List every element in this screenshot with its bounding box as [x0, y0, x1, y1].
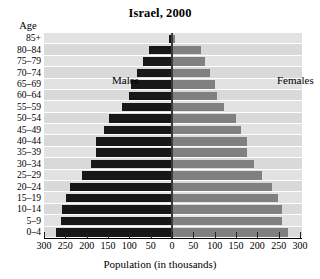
- x-axis-title: Population (in thousands): [0, 258, 320, 270]
- x-tick-mark: [65, 232, 66, 238]
- age-tick-label: 80–84: [0, 44, 41, 55]
- bar-female: [172, 69, 210, 77]
- series-label-females: Females: [277, 74, 314, 86]
- x-tick-mark: [300, 232, 301, 238]
- age-tick-label: 75–79: [0, 55, 41, 66]
- age-tick-label: 5–9: [0, 215, 41, 226]
- bar-male: [61, 217, 172, 225]
- bar-female: [172, 148, 247, 156]
- age-tick-label: 0–4: [0, 226, 41, 237]
- x-tick-mark: [279, 232, 280, 238]
- bar-male: [62, 205, 172, 213]
- population-pyramid-chart: Israel, 2000 Age Males Females 85+80–847…: [0, 0, 320, 279]
- bar-female: [172, 160, 254, 168]
- x-tick-mark: [257, 232, 258, 238]
- bar-female: [172, 183, 272, 191]
- series-label-males: Males: [112, 74, 139, 86]
- age-tick-label: 70–74: [0, 67, 41, 78]
- plot-area: Males Females: [44, 33, 302, 238]
- bar-male: [129, 92, 172, 100]
- bar-male: [70, 183, 172, 191]
- bar-female: [172, 126, 241, 134]
- age-tick-label: 10–14: [0, 203, 41, 214]
- bar-female: [172, 114, 236, 122]
- bar-male: [143, 57, 172, 65]
- bar-male: [96, 148, 172, 156]
- age-tick-label: 85+: [0, 32, 41, 43]
- bar-female: [172, 205, 282, 213]
- bar-female: [172, 80, 215, 88]
- x-axis-line: [44, 238, 302, 239]
- age-tick-label: 45–49: [0, 124, 41, 135]
- x-tick-mark: [151, 232, 152, 238]
- center-axis-line: [171, 33, 172, 238]
- bar-male: [109, 114, 172, 122]
- age-tick-label: 35–39: [0, 146, 41, 157]
- x-tick-mark: [236, 232, 237, 238]
- x-tick-mark: [87, 232, 88, 238]
- y-axis-title: Age: [12, 20, 44, 31]
- x-tick-mark: [172, 232, 173, 238]
- bar-male: [104, 126, 172, 134]
- age-tick-label: 60–64: [0, 89, 41, 100]
- bar-female: [172, 92, 217, 100]
- bar-female: [172, 137, 247, 145]
- age-tick-label: 25–29: [0, 169, 41, 180]
- chart-title: Israel, 2000: [0, 6, 320, 21]
- bar-male: [56, 228, 172, 236]
- bar-female: [172, 103, 224, 111]
- bar-male: [149, 46, 172, 54]
- bar-male: [66, 194, 172, 202]
- x-tick-label: 300: [280, 240, 320, 251]
- bar-male: [137, 69, 172, 77]
- x-tick-mark: [129, 232, 130, 238]
- bar-female: [172, 46, 201, 54]
- bar-female: [172, 228, 288, 236]
- x-tick-mark: [44, 232, 45, 238]
- x-tick-mark: [215, 232, 216, 238]
- age-tick-label: 30–34: [0, 158, 41, 169]
- x-tick-mark: [108, 232, 109, 238]
- bar-male: [91, 160, 172, 168]
- age-tick-label: 55–59: [0, 101, 41, 112]
- bar-male: [82, 171, 172, 179]
- age-tick-label: 20–24: [0, 181, 41, 192]
- age-tick-label: 50–54: [0, 112, 41, 123]
- bar-female: [172, 57, 205, 65]
- age-tick-label: 15–19: [0, 192, 41, 203]
- age-tick-label: 65–69: [0, 78, 41, 89]
- bar-female: [172, 194, 278, 202]
- bar-male: [122, 103, 172, 111]
- bar-female: [172, 217, 282, 225]
- bar-female: [172, 171, 262, 179]
- x-tick-mark: [193, 232, 194, 238]
- bar-male: [96, 137, 172, 145]
- age-tick-label: 40–44: [0, 135, 41, 146]
